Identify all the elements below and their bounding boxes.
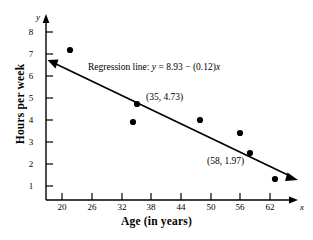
y-tick-label-6: 6 <box>24 72 38 81</box>
x-tick-label-32: 32 <box>112 203 132 212</box>
regression-line <box>48 60 299 182</box>
y-tick-label-8: 8 <box>24 28 38 37</box>
y-tick-label-4: 4 <box>24 116 38 125</box>
x-tick-label-50: 50 <box>201 203 221 212</box>
x-tick-label-26: 26 <box>82 203 102 212</box>
y-axis <box>43 14 53 200</box>
x-axis <box>46 193 298 203</box>
point-label-58-197: (58, 1.97) <box>207 157 244 167</box>
x-tick-label-20: 20 <box>52 203 72 212</box>
y-tick-label-1: 1 <box>24 182 38 191</box>
x-tick-label-44: 44 <box>171 203 191 212</box>
x-tick-label-38: 38 <box>141 203 161 212</box>
data-point <box>67 47 73 53</box>
x-tick-label-56: 56 <box>230 203 250 212</box>
data-point <box>247 150 253 156</box>
regression-equation-annotation: Regression line: y = 8.93 − (0.12)x <box>88 63 220 73</box>
y-axis-title: Hours per week <box>14 39 26 169</box>
y-axis-symbol: y <box>36 13 40 22</box>
regression-equation-prefix: Regression line: <box>88 62 152 72</box>
y-tick-label-5: 5 <box>24 94 38 103</box>
point-label-35-473: (35, 4.73) <box>146 93 183 103</box>
x-tick-label-62: 62 <box>260 203 280 212</box>
regression-equation-body: = 8.93 − (0.12) <box>156 62 216 72</box>
x-axis-title: Age (in years) <box>0 215 313 227</box>
y-tick-label-7: 7 <box>24 50 38 59</box>
data-point <box>272 176 278 182</box>
x-axis-symbol: x <box>300 203 304 212</box>
data-point <box>130 119 136 125</box>
data-point <box>237 130 243 136</box>
y-tick-label-2: 2 <box>24 160 38 169</box>
data-point <box>134 101 140 107</box>
y-tick-label-3: 3 <box>24 138 38 147</box>
data-point <box>197 117 203 123</box>
regression-scatter-chart: 1 2 3 4 5 6 7 8 20 26 32 38 44 50 56 62 … <box>0 0 313 240</box>
regression-equation-x-symbol: x <box>216 62 220 72</box>
